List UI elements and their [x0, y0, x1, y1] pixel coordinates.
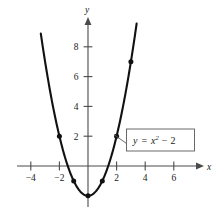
- data-point: [128, 59, 133, 64]
- x-tick-label: 2: [114, 173, 119, 183]
- parabola-curve: [41, 24, 137, 196]
- data-point: [57, 134, 62, 139]
- y-tick-labels: 2 4 6 8: [74, 42, 79, 141]
- x-tick-label: −2: [54, 173, 64, 183]
- parabola-figure: x y −4 −2 2 4 6 2: [0, 0, 220, 219]
- data-point: [100, 178, 105, 183]
- x-tick-label: 6: [171, 173, 176, 183]
- y-tick-label: 8: [74, 42, 79, 52]
- x-axis-arrowhead: [196, 163, 204, 170]
- y-tick-label: 2: [74, 132, 79, 142]
- y-axis-label: y: [84, 5, 90, 15]
- y-tick-label: 4: [74, 102, 79, 112]
- data-point: [71, 178, 76, 183]
- x-tick-label: −4: [26, 173, 36, 183]
- y-tick-label: 6: [74, 72, 79, 82]
- plot-area: x y −4 −2 2 4 6 2: [0, 0, 220, 219]
- data-points: [57, 59, 133, 198]
- x-axis-label: x: [206, 162, 212, 172]
- y-axis-arrowhead: [85, 17, 92, 25]
- data-point: [86, 193, 91, 198]
- x-tick-label: 4: [143, 173, 148, 183]
